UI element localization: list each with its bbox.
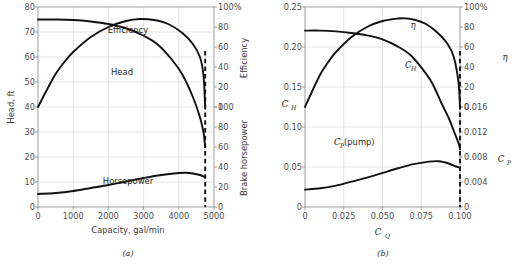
panel-b-curve-label-cp: C P (pump) — [334, 137, 375, 149]
x-tick-label: 0.025 — [332, 211, 355, 221]
y-right-bottom-tick-label: 20 — [218, 182, 228, 192]
y-left-tick-label: 60 — [25, 52, 35, 62]
y-left-tick-label: 0.25 — [284, 2, 302, 12]
panel-a-caption: (a) — [122, 249, 133, 258]
x-tick-label: 0.075 — [410, 211, 433, 221]
panel-b-curve-label-eta: η — [410, 20, 416, 30]
panel-b: 00.0250.0500.0750.10000.050.100.150.200.… — [282, 2, 512, 258]
x-tick-label: 0 — [35, 211, 40, 221]
x-tick-label: 3000 — [133, 211, 154, 221]
panel-b-xaxis-title-main: C — [375, 227, 382, 237]
panel-a-curve-label-horsepower: Horsepower — [103, 176, 154, 186]
y-left-tick-label: 0.15 — [284, 82, 302, 92]
panel-b-yaxis-right-top-title: η — [502, 52, 508, 62]
figure-root: 0100020003000400050000102030405060708002… — [0, 0, 516, 264]
y-left-tick-label: 70 — [25, 27, 35, 37]
y-right-bottom-tick-label: 60 — [218, 142, 228, 152]
x-tick-label: 5000 — [204, 211, 225, 221]
y-right-top-tick-label: 40 — [218, 62, 228, 72]
y-right-bottom-tick-label: 0.016 — [464, 102, 487, 112]
panel-b-curve-label-ch: C H — [405, 60, 417, 72]
y-right-bottom-tick-label: 0.008 — [464, 152, 487, 162]
y-left-tick-label: 0 — [30, 202, 35, 212]
panel-b-yaxis-left-title-main: C — [282, 99, 289, 109]
y-right-bottom-tick-label: 40 — [218, 162, 228, 172]
panel-b-yaxis-right-bottom-title-main: C — [498, 154, 505, 164]
x-tick-label: 0.050 — [371, 211, 394, 221]
y-left-tick-label: 30 — [25, 127, 35, 137]
y-right-bottom-tick-label: 0.012 — [464, 127, 487, 137]
panel-b-xaxis-title: C Q — [375, 227, 390, 239]
y-left-tick-label: 0.05 — [284, 162, 302, 172]
y-left-tick-label: 0.20 — [284, 42, 302, 52]
y-right-top-tick-label: 80 — [464, 22, 474, 32]
panel-a: 0100020003000400050000102030405060708002… — [6, 2, 249, 258]
y-left-tick-label: 50 — [25, 77, 35, 87]
panel-a-curve-label-head: Head — [111, 67, 133, 77]
y-right-top-tick-label: 80 — [218, 22, 228, 32]
y-left-tick-label: 40 — [25, 102, 35, 112]
y-right-bottom-tick-label: 100 — [218, 102, 234, 112]
y-right-top-tick-label: 60 — [464, 42, 474, 52]
y-left-tick-label: 10 — [25, 177, 35, 187]
y-left-tick-label: 80 — [25, 2, 35, 12]
y-left-tick-label: 20 — [25, 152, 35, 162]
x-tick-label: 0 — [302, 211, 307, 221]
y-right-top-tick-label: 20 — [464, 82, 474, 92]
y-right-top-tick-label: 20 — [218, 82, 228, 92]
panel-b-yaxis-right-bottom-title: C P — [498, 154, 512, 166]
y-right-top-tick-label: 100% — [218, 2, 242, 12]
panel-a-yaxis-right-bottom-title: Brake horsepower — [239, 119, 249, 196]
y-right-bottom-tick-label: 0.004 — [464, 177, 487, 187]
pump-performance-figure: 0100020003000400050000102030405060708002… — [0, 0, 516, 264]
x-tick-label: 4000 — [168, 211, 189, 221]
panel-b-curve-label-ch-sub: H — [410, 65, 417, 72]
panel-b-xaxis-title-sub: Q — [385, 232, 390, 239]
curve-head — [38, 19, 205, 147]
y-right-bottom-tick-label: 80 — [218, 122, 228, 132]
y-right-top-tick-label: 100% — [464, 2, 488, 12]
panel-b-curve-label-cp-tail: (pump) — [344, 137, 375, 147]
panel-a-xaxis-title: Capacity, gal/min — [91, 225, 164, 235]
y-right-bottom-tick-label: 0 — [218, 202, 223, 212]
panel-a-curve-label-efficiency: Efficiency — [108, 25, 148, 35]
panel-b-caption: (b) — [377, 249, 388, 258]
panel-b-gridlines — [305, 7, 460, 207]
x-tick-label: 0.100 — [448, 211, 471, 221]
panel-b-yaxis-left-title-sub: H — [290, 104, 297, 111]
panel-a-yaxis-left-title: Head, ft — [6, 90, 16, 124]
panel-b-yaxis-left-title: C H — [282, 99, 297, 111]
y-left-tick-label: 0 — [297, 202, 302, 212]
panel-b-yaxis-right-bottom-title-sub: P — [506, 159, 512, 166]
y-right-top-tick-label: 60 — [218, 42, 228, 52]
panel-a-yaxis-right-top-title: Efficiency — [239, 38, 249, 78]
x-tick-label: 1000 — [63, 211, 84, 221]
y-right-bottom-tick-label: 0 — [464, 202, 469, 212]
x-tick-label: 2000 — [98, 211, 119, 221]
y-left-tick-label: 0.10 — [284, 122, 302, 132]
y-right-top-tick-label: 40 — [464, 62, 474, 72]
